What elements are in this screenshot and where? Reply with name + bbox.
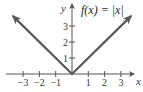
x-axis-label: x	[135, 75, 141, 87]
x-tick-label: 1	[86, 77, 91, 88]
y-axis-label: y	[60, 2, 66, 14]
y-tick-label: 3	[63, 21, 68, 32]
chart-title: f(x) = |x|	[81, 3, 124, 17]
y-tick-label: 2	[63, 37, 68, 48]
x-tick-label: 2	[102, 77, 107, 88]
x-tick-label: −2	[34, 77, 45, 88]
y-tick-label: 1	[63, 53, 68, 64]
x-tick-label: −3	[18, 77, 29, 88]
curve-right-branch	[72, 16, 131, 74]
x-tick-label: 3	[118, 77, 123, 88]
x-tick-label: −1	[50, 77, 61, 88]
vertex-point	[71, 73, 73, 75]
ticks: −3−2−1123123	[18, 21, 124, 89]
chart: xy −3−2−1123123 f(x) = |x|	[0, 0, 143, 92]
